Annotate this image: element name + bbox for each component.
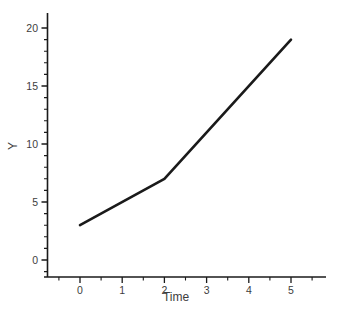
x-tick-label: 4 [246,284,252,296]
y-tick-label: 10 [26,138,38,150]
y-tick-label: 0 [32,254,38,266]
x-axis-label: Time [163,290,190,304]
y-axis-label: Y [6,142,20,150]
x-tick-label: 3 [204,284,210,296]
line-chart: 05101520012345TimeY [0,0,340,316]
x-tick-label: 5 [288,284,294,296]
y-tick-label: 15 [26,80,38,92]
y-tick-label: 20 [26,22,38,34]
chart-background [0,0,340,316]
x-tick-label: 0 [77,284,83,296]
chart-figure: 05101520012345TimeY [0,0,340,316]
y-tick-label: 5 [32,196,38,208]
x-tick-label: 1 [119,284,125,296]
